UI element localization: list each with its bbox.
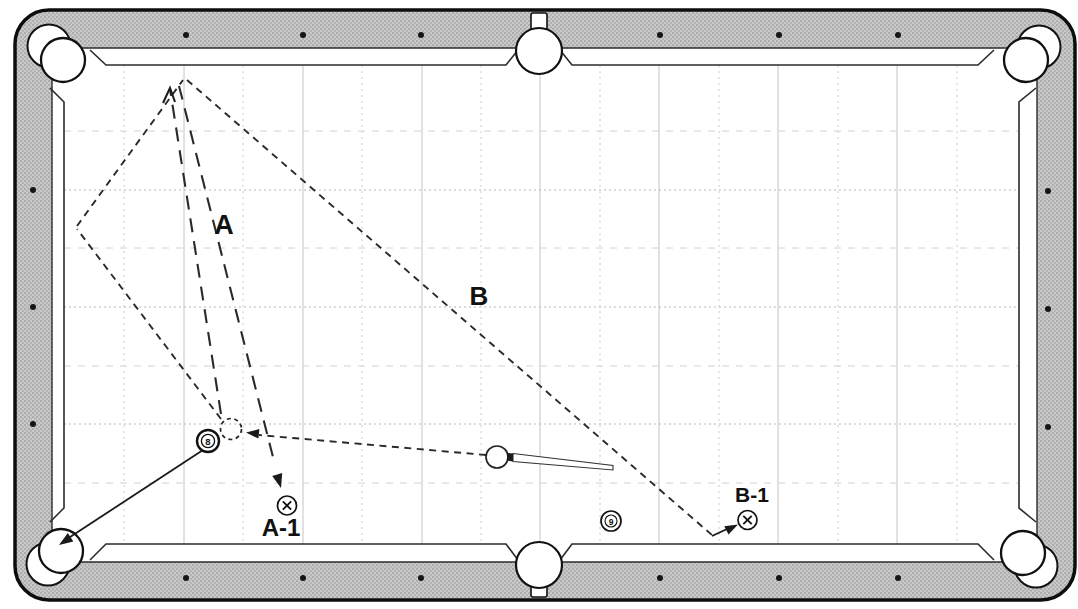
rail-diamonds-top [895, 32, 901, 38]
eight-ball-number: 8 [205, 436, 210, 447]
rail-diamonds-top [776, 32, 782, 38]
corner-pocket-top-right [1004, 38, 1048, 82]
pool-table-diagram-page: 89ABA-1B-1 [0, 0, 1078, 609]
corner-pocket-top-left [41, 38, 85, 82]
label-position-b1: B-1 [735, 483, 769, 506]
corner-pocket-bottom-left [39, 529, 83, 573]
side-pocket-top [516, 28, 562, 74]
side-pocket-bottom [516, 542, 562, 588]
rail-diamonds-left [30, 187, 36, 193]
rail-diamonds-right [1045, 424, 1051, 430]
nine-ball-number: 9 [609, 517, 614, 527]
label-position-a1: A-1 [262, 514, 301, 541]
rail-diamonds-left [30, 304, 36, 310]
cue-ball [486, 446, 508, 468]
rail-diamonds-right [1045, 188, 1051, 194]
rail-diamonds-bottom [300, 575, 306, 581]
rail-diamonds-top [657, 32, 663, 38]
cushion-band [52, 48, 1037, 562]
rail-diamonds-bottom [657, 575, 663, 581]
rail-diamonds-left [30, 421, 36, 427]
rail-diamonds-bottom [418, 575, 424, 581]
rail-diamonds-right [1045, 306, 1051, 312]
pool-table-diagram: 89ABA-1B-1 [0, 0, 1078, 609]
corner-pocket-bottom-right [1001, 531, 1045, 575]
rail-diamonds-bottom [183, 575, 189, 581]
rail-diamonds-top [183, 32, 189, 38]
rail-diamonds-top [300, 32, 306, 38]
cue-stick-tip [507, 453, 513, 462]
rail-diamonds-bottom [895, 575, 901, 581]
rail-diamonds-top [418, 32, 424, 38]
rail-diamonds-bottom [776, 575, 782, 581]
label-path-a: A [214, 210, 234, 240]
label-path-b: B [470, 281, 489, 311]
